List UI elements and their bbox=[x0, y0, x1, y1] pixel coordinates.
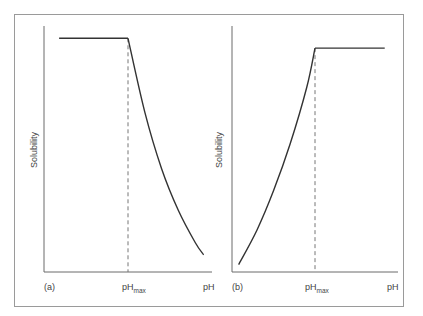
panel-label-a: (a) bbox=[44, 282, 55, 292]
xtick-phmax-a: pHmax bbox=[122, 282, 147, 294]
figure: Solubility (a) pHmax pH Solubility (b) p… bbox=[0, 0, 423, 316]
panel-b: Solubility (b) pHmax pH bbox=[214, 26, 399, 294]
outer-frame bbox=[15, 15, 404, 307]
curve-decline-a bbox=[128, 38, 204, 254]
y-label-a: Solubility bbox=[29, 131, 39, 168]
curve-rise-b bbox=[239, 48, 315, 264]
x-label-a: pH bbox=[203, 282, 215, 292]
panel-a: Solubility (a) pHmax pH bbox=[29, 26, 215, 294]
y-label-b: Solubility bbox=[214, 131, 224, 168]
x-label-b: pH bbox=[387, 282, 399, 292]
xtick-phmax-b: pHmax bbox=[305, 282, 330, 294]
panel-label-b: (b) bbox=[232, 282, 243, 292]
